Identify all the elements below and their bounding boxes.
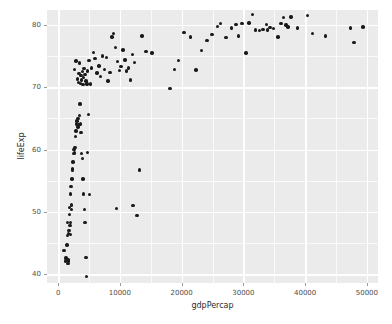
data-point — [144, 50, 147, 53]
gridline-minor-vertical — [213, 10, 214, 283]
x-tick-mark — [305, 283, 306, 286]
data-point — [69, 221, 72, 224]
y-tick-label: 70 — [32, 83, 41, 92]
gridline-major-horizontal — [47, 150, 378, 151]
gridline-minor-vertical — [89, 10, 90, 283]
data-point — [74, 135, 77, 138]
data-point — [237, 34, 240, 37]
data-point — [276, 35, 279, 38]
data-point — [68, 224, 71, 227]
data-point — [79, 122, 82, 125]
data-point — [115, 207, 118, 210]
data-point — [200, 49, 203, 52]
data-point — [85, 275, 88, 278]
data-point — [138, 168, 141, 171]
scatter-plot: 010000200003000040000500004050607080 gdp… — [0, 0, 392, 324]
x-tick-mark — [367, 283, 368, 286]
gridline-major-vertical — [305, 10, 306, 283]
data-point — [173, 68, 176, 71]
data-point — [83, 208, 86, 211]
data-point — [87, 113, 90, 116]
y-tick-mark — [44, 150, 47, 151]
data-point — [105, 56, 108, 59]
x-tick-mark — [243, 283, 244, 286]
x-tick-mark — [58, 283, 59, 286]
data-point — [81, 83, 84, 86]
gridline-major-vertical — [367, 10, 368, 283]
data-point — [194, 68, 197, 71]
data-point — [121, 48, 124, 51]
gridline-minor-horizontal — [47, 181, 378, 182]
data-point — [71, 160, 74, 163]
y-tick-label: 40 — [32, 270, 41, 279]
data-point — [216, 25, 219, 28]
data-point — [81, 177, 84, 180]
data-point — [69, 192, 72, 195]
data-point — [205, 39, 208, 42]
x-tick-label: 50000 — [356, 289, 378, 298]
data-point — [177, 59, 180, 62]
data-point — [70, 203, 73, 206]
data-point — [99, 75, 102, 78]
data-point — [73, 151, 76, 154]
data-point — [230, 26, 233, 29]
data-point — [84, 256, 87, 259]
gridline-minor-vertical — [336, 10, 337, 283]
data-point — [88, 193, 91, 196]
data-point — [114, 46, 117, 49]
data-point — [168, 87, 171, 90]
data-point — [234, 23, 237, 26]
data-point — [131, 53, 134, 56]
data-point — [129, 78, 132, 81]
x-tick-label: 0 — [56, 289, 60, 298]
data-point — [95, 71, 98, 74]
data-point — [210, 33, 213, 36]
data-point — [282, 16, 285, 19]
data-point — [254, 28, 257, 31]
y-tick-mark — [44, 212, 47, 213]
gridline-major-vertical — [182, 10, 183, 283]
y-tick-mark — [44, 274, 47, 275]
data-point — [112, 32, 115, 35]
data-point — [251, 13, 254, 16]
data-point — [131, 204, 134, 207]
data-point — [106, 79, 109, 82]
data-point — [182, 31, 185, 34]
x-tick-label: 40000 — [294, 289, 316, 298]
data-point — [69, 233, 72, 236]
data-point — [133, 61, 136, 64]
data-point — [189, 35, 192, 38]
data-point — [116, 60, 119, 63]
data-point — [92, 51, 95, 54]
data-point — [123, 58, 126, 61]
gridline-major-horizontal — [47, 274, 378, 275]
data-point — [70, 208, 73, 211]
data-point — [306, 14, 309, 17]
gridline-major-vertical — [58, 10, 59, 283]
data-point — [224, 36, 227, 39]
data-point — [78, 102, 81, 105]
data-point — [108, 71, 111, 74]
data-point — [261, 28, 264, 31]
x-tick-label: 10000 — [109, 289, 131, 298]
data-point — [78, 61, 81, 64]
data-point — [79, 131, 82, 134]
y-axis-title: lifeExp — [17, 132, 27, 159]
gridline-major-horizontal — [47, 87, 378, 88]
data-point — [103, 68, 106, 71]
data-point — [67, 229, 70, 232]
data-point — [78, 114, 81, 117]
x-tick-label: 20000 — [170, 289, 192, 298]
data-point — [150, 51, 153, 54]
y-tick-label: 80 — [32, 20, 41, 29]
data-point — [76, 117, 79, 120]
gridline-major-horizontal — [47, 25, 378, 26]
x-axis-title: gdpPercap — [47, 301, 378, 311]
data-point — [67, 259, 70, 262]
data-point — [125, 69, 128, 72]
data-point — [324, 34, 327, 37]
data-point — [361, 25, 364, 28]
data-point — [89, 82, 92, 85]
data-point — [244, 51, 247, 54]
data-point — [69, 185, 72, 188]
